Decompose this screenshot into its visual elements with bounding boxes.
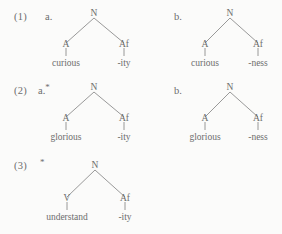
example-sublabel-2b: b. bbox=[174, 85, 182, 96]
tree-1a-root: N bbox=[91, 8, 98, 18]
tree-2a-right-leaf: -ity bbox=[117, 132, 130, 142]
tree-1a-right-leaf: -ity bbox=[117, 58, 130, 68]
tree-2b-root: N bbox=[227, 82, 234, 92]
example-sublabel-1b: b. bbox=[174, 11, 182, 22]
tree-3-left-leaf: understand bbox=[46, 212, 88, 222]
tree-3-root: N bbox=[92, 160, 99, 170]
tree-3: N V Af understand -ity bbox=[48, 160, 144, 222]
tree-2a-root: N bbox=[91, 82, 98, 92]
tree-1b-root: N bbox=[227, 8, 234, 18]
tree-2a-right-node: Af bbox=[119, 113, 130, 123]
tree-1a: N A Af curious -ity bbox=[48, 8, 144, 68]
tree-3-left-node: V bbox=[64, 193, 71, 203]
morphology-tree-figure: (1) a. N A Af curious -ity b. N A Af cur… bbox=[0, 0, 282, 234]
tree-1b-right-leaf: -ness bbox=[248, 58, 268, 68]
tree-2b-left-node: A bbox=[202, 113, 209, 123]
tree-2a-left-node: A bbox=[63, 113, 70, 123]
ungrammatical-marker-3: * bbox=[40, 160, 45, 171]
example-number-2: (2) bbox=[14, 85, 27, 96]
tree-2b-left-leaf: glorious bbox=[189, 132, 220, 142]
tree-2b-right-node: Af bbox=[253, 113, 264, 123]
example-number-3: (3) bbox=[14, 160, 27, 171]
tree-1a-left-leaf: curious bbox=[52, 58, 80, 68]
ungrammatical-star-3: * bbox=[40, 157, 45, 167]
tree-1b: N A Af curious -ness bbox=[192, 8, 276, 68]
tree-1b-right-node: Af bbox=[253, 39, 264, 49]
tree-2a-left-leaf: glorious bbox=[50, 132, 81, 142]
tree-2b: N A Af glorious -ness bbox=[192, 82, 276, 142]
example-number-1: (1) bbox=[14, 11, 27, 22]
tree-1b-left-leaf: curious bbox=[191, 58, 219, 68]
tree-1a-right-node: Af bbox=[119, 39, 130, 49]
tree-3-right-node: Af bbox=[120, 193, 131, 203]
tree-3-right-leaf: -ity bbox=[118, 212, 131, 222]
tree-1a-left-node: A bbox=[63, 39, 70, 49]
tree-1b-left-node: A bbox=[202, 39, 209, 49]
tree-2a: N A Af glorious -ity bbox=[48, 82, 144, 142]
tree-2b-right-leaf: -ness bbox=[248, 132, 268, 142]
